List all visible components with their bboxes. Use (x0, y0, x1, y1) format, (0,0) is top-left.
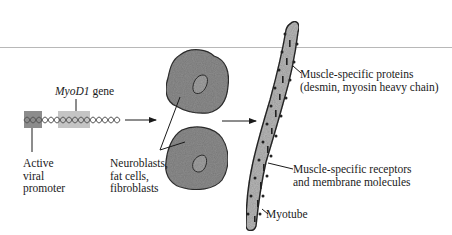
cell-types-label-line: Neuroblasts, (110, 157, 168, 170)
promoter-label-line: viral (23, 170, 65, 183)
myod1-gene-box (58, 111, 90, 128)
muscle-receptors-label-line: and membrane molecules (293, 176, 411, 189)
muscle-proteins-label-line: Muscle-specific proteins (300, 68, 439, 81)
myod1-gene-label: MyoD1 gene (55, 85, 114, 98)
myotube-label: Myotube (266, 208, 308, 221)
dna-construct (24, 99, 120, 152)
muscle-receptors-label-line: Muscle-specific receptors (293, 163, 411, 176)
promoter-label-line: promoter (23, 182, 65, 195)
gene-name: MyoD1 (55, 85, 90, 97)
gene-suffix: gene (90, 85, 115, 97)
diagram-graphics (0, 0, 452, 235)
myotube-shape (246, 22, 299, 231)
muscle-proteins-label: Muscle-specific proteins (desmin, myosin… (300, 68, 439, 93)
muscle-proteins-label-line: (desmin, myosin heavy chain) (300, 81, 439, 94)
cell-bottom (166, 127, 228, 190)
myod1-conversion-diagram: MyoD1 gene Active viral promoter Neurobl… (0, 0, 452, 235)
cell-types-label: Neuroblasts, fat cells, fibroblasts (110, 157, 168, 195)
promoter-label: Active viral promoter (23, 157, 65, 195)
cell-types-label-line: fibroblasts (110, 182, 168, 195)
cell-types-label-line: fat cells, (110, 170, 168, 183)
cell-top (166, 50, 228, 114)
promoter-label-line: Active (23, 157, 65, 170)
viral-promoter-box (24, 111, 42, 128)
muscle-receptors-label: Muscle-specific receptors and membrane m… (293, 163, 411, 188)
